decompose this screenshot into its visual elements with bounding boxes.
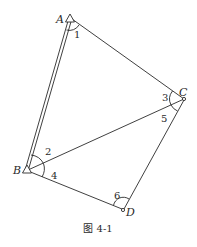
angle-label-6: 6 bbox=[114, 190, 120, 201]
angle-label-2: 2 bbox=[45, 146, 51, 157]
vertex-label-a: A bbox=[55, 13, 64, 26]
angle-arc-2 bbox=[31, 155, 44, 164]
angle-label-4: 4 bbox=[51, 170, 57, 181]
station-d-circle-icon bbox=[121, 208, 124, 211]
edge-c-d bbox=[124, 100, 184, 209]
vertex-label-c: C bbox=[179, 86, 188, 99]
angle-arc-4 bbox=[42, 164, 44, 178]
vertex-label-b: B bbox=[12, 164, 21, 177]
edge-a-c bbox=[72, 19, 184, 99]
edge-b-c bbox=[28, 99, 184, 170]
angle-arc-3 bbox=[170, 91, 173, 105]
station-a-triangle-icon bbox=[66, 14, 75, 22]
traverse-diagram: A B C D 1 2 3 4 5 6 图 4-1 bbox=[0, 0, 197, 247]
vertex-label-d: D bbox=[125, 206, 135, 219]
figure-caption: 图 4-1 bbox=[83, 223, 112, 234]
angle-arc-5 bbox=[171, 105, 178, 111]
angle-label-1: 1 bbox=[74, 29, 80, 40]
angle-label-5: 5 bbox=[161, 113, 167, 124]
angle-label-3: 3 bbox=[162, 92, 168, 103]
